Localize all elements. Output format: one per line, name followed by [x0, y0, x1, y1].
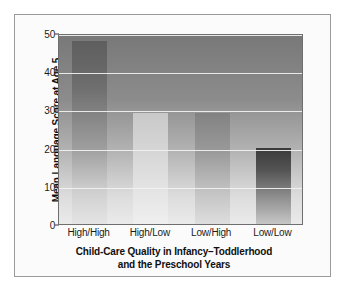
- x-axis-tick-label: Low/Low: [253, 227, 291, 238]
- y-axis-tick-label: 50: [33, 29, 55, 40]
- plot-wrapper: [58, 34, 303, 225]
- y-axis-tick-label: 30: [33, 105, 55, 116]
- y-axis-tick-label: 20: [33, 143, 55, 154]
- figure-card: Mean Language Score at Age 5 01020304050…: [14, 14, 331, 277]
- gridline: [59, 35, 302, 36]
- bar: [72, 41, 107, 224]
- y-axis-ticks: 01020304050: [29, 34, 55, 225]
- bar: [256, 148, 291, 224]
- gridline: [59, 111, 302, 112]
- plot-area: [58, 34, 303, 225]
- gridline: [59, 73, 302, 74]
- x-axis-title-line-2: and the Preschool Years: [35, 258, 313, 271]
- y-axis-tick-label: 10: [33, 181, 55, 192]
- x-axis-title-line-1: Child-Care Quality in Infancy–Toddlerhoo…: [35, 245, 313, 258]
- x-axis-tick-label: High/Low: [130, 227, 170, 238]
- gridline: [59, 150, 302, 151]
- y-axis-tick-label: 40: [33, 67, 55, 78]
- y-axis-tick-label: 0: [33, 220, 55, 231]
- x-axis-tick-labels: High/HighHigh/LowLow/HighLow/Low: [58, 227, 303, 243]
- figure-caption: [14, 281, 334, 295]
- gridline: [59, 188, 302, 189]
- bar: [195, 113, 230, 224]
- bar: [133, 113, 168, 224]
- x-axis-title: Child-Care Quality in Infancy–Toddlerhoo…: [35, 245, 313, 271]
- x-axis-tick-label: High/High: [68, 227, 110, 238]
- x-axis-tick-label: Low/High: [191, 227, 231, 238]
